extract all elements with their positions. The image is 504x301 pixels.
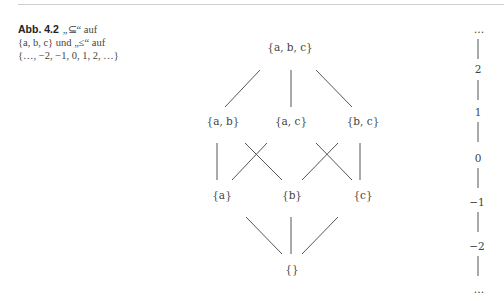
edge-ab-b bbox=[245, 143, 282, 180]
node-b: {b} bbox=[282, 189, 302, 202]
node-abc: {a, b, c} bbox=[267, 41, 313, 54]
edge-abc-bc bbox=[316, 70, 352, 107]
chain-node-minus-1: −1 bbox=[469, 196, 484, 208]
node-empty: {} bbox=[285, 263, 298, 276]
node-a: {a} bbox=[212, 189, 232, 202]
chain-node-0: 0 bbox=[475, 152, 482, 164]
node-ac: {a, c} bbox=[275, 115, 307, 128]
chain-node-minus-2: −2 bbox=[469, 240, 484, 252]
hasse-diagrams: {a, b, c} {a, b} {a, c} {b, c} {a} {b} {… bbox=[0, 0, 504, 301]
chain-top-ellipsis: … bbox=[474, 23, 485, 35]
edge-ac-c bbox=[316, 143, 352, 180]
edge-bc-b bbox=[302, 143, 338, 180]
chain-node-2: 2 bbox=[475, 63, 482, 75]
chain-node-1: 1 bbox=[475, 106, 482, 118]
edge-ac-a bbox=[232, 143, 267, 180]
node-ab: {a, b} bbox=[206, 115, 239, 128]
node-bc: {b, c} bbox=[347, 115, 380, 128]
chain-bottom-ellipsis: … bbox=[474, 283, 485, 295]
node-c: {c} bbox=[353, 189, 372, 202]
edge-c-empty bbox=[302, 217, 338, 254]
edge-a-empty bbox=[246, 217, 282, 254]
edge-abc-ab bbox=[225, 70, 260, 107]
